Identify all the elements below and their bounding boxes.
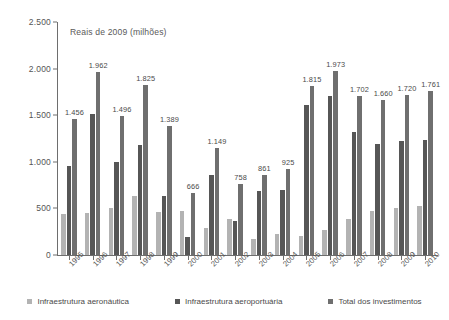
legend-swatch-icon: [27, 299, 32, 304]
bar: [138, 145, 143, 255]
bar: [257, 191, 262, 255]
bar: [162, 196, 167, 255]
bar: [428, 91, 433, 255]
bar: [132, 196, 137, 255]
bar-value-label: 861: [258, 164, 271, 173]
y-axis-tick-label: 2.000: [0, 64, 57, 74]
bar: [85, 213, 90, 255]
plot-area: 1.4561.9621.4961.8251.3896661.1497588619…: [57, 22, 437, 255]
bar-value-label: 1.456: [65, 108, 84, 117]
bar: [251, 239, 256, 255]
bar: [310, 86, 315, 255]
bar-value-label: 1.720: [397, 84, 416, 93]
bar: [375, 144, 380, 255]
bar: [185, 237, 190, 255]
bar-value-label: 1.825: [136, 74, 155, 83]
bar-value-label: 1.702: [350, 85, 369, 94]
bar: [120, 116, 125, 255]
bar: [304, 105, 309, 255]
bar: [417, 206, 422, 255]
bar: [143, 85, 148, 255]
bar-value-label: 1.496: [112, 105, 131, 114]
y-axis-tick-label: 1.000: [0, 157, 57, 167]
bar-chart: Reais de 2009 (milhões) 05001.0001.5002.…: [0, 0, 449, 320]
bar: [333, 71, 338, 255]
bar: [233, 221, 238, 255]
bar: [299, 236, 304, 255]
legend-item-label: Infraestrutura aeroportuária: [185, 297, 282, 306]
bar: [114, 162, 119, 255]
bar-value-label: 1.815: [302, 75, 321, 84]
chart-legend: Infraestrutura aeronáuticaInfraestrutura…: [0, 297, 449, 306]
bar: [227, 219, 232, 255]
bar: [215, 148, 220, 255]
legend-swatch-icon: [175, 299, 180, 304]
legend-item-label: Total dos investimentos: [338, 297, 421, 306]
bar-value-label: 1.761: [421, 80, 440, 89]
bar: [238, 184, 243, 255]
bar: [167, 126, 172, 255]
bar: [180, 211, 185, 255]
bar: [405, 95, 410, 255]
bar: [381, 100, 386, 255]
bar: [399, 141, 404, 255]
bar: [280, 190, 285, 255]
bar: [204, 228, 209, 255]
bar: [262, 175, 267, 255]
y-axis-tick-label: 2.500: [0, 17, 57, 27]
y-axis-tick-label: 500: [0, 203, 57, 213]
bar: [423, 140, 428, 255]
bar-value-label: 1.962: [89, 61, 108, 70]
legend-item: Infraestrutura aeronáutica: [27, 297, 129, 306]
legend-item-label: Infraestrutura aeronáutica: [37, 297, 129, 306]
y-axis-tick-label: 1.500: [0, 110, 57, 120]
bar-value-label: 666: [187, 182, 200, 191]
bar: [156, 212, 161, 255]
bar: [191, 193, 196, 255]
bar: [72, 119, 77, 255]
bar: [209, 175, 214, 255]
bar: [275, 234, 280, 255]
bar-value-label: 925: [282, 158, 295, 167]
bar: [394, 208, 399, 255]
bar: [328, 96, 333, 255]
bar: [346, 219, 351, 255]
bar-value-label: 1.660: [374, 89, 393, 98]
legend-item: Total dos investimentos: [328, 297, 421, 306]
bar-value-label: 1.149: [207, 137, 226, 146]
bar: [322, 230, 327, 255]
legend-item: Infraestrutura aeroportuária: [175, 297, 282, 306]
bar-value-label: 758: [234, 173, 247, 182]
bar: [67, 166, 72, 255]
bar: [370, 211, 375, 255]
bar: [90, 114, 95, 255]
bar: [96, 72, 101, 255]
bar: [286, 169, 291, 255]
bar: [61, 214, 66, 255]
bar: [352, 132, 357, 255]
bar: [357, 96, 362, 255]
bar-value-label: 1.389: [160, 115, 179, 124]
bar: [109, 208, 114, 255]
legend-swatch-icon: [328, 299, 333, 304]
y-axis-tick-label: 0: [0, 250, 57, 260]
bar-value-label: 1.973: [326, 60, 345, 69]
